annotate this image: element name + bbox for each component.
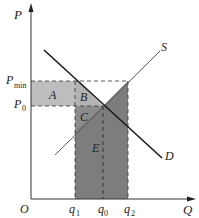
q2-label: q — [124, 202, 130, 216]
origin-label: O — [20, 202, 29, 216]
y-axis-label: P — [13, 7, 22, 22]
q1-label: q — [69, 202, 75, 216]
p0-label: P — [13, 97, 22, 111]
p0-subscript: 0 — [22, 104, 26, 113]
x-axis-arrow-icon — [187, 197, 196, 202]
region-e-label: E — [91, 141, 100, 155]
q1-subscript: 1 — [76, 209, 80, 218]
demand-label: D — [164, 149, 174, 163]
x-axis-label: Q — [183, 202, 193, 217]
q2-subscript: 2 — [131, 209, 135, 218]
pmin-label: P — [5, 73, 14, 87]
region-b-label: B — [80, 90, 88, 104]
region-a-label: A — [48, 88, 57, 102]
q0-subscript: 0 — [104, 209, 108, 218]
price-floor-diagram: P Q O P min P 0 q 1 q 0 q 2 S D A B C E — [0, 0, 199, 218]
supply-label: S — [161, 40, 167, 54]
pmin-subscript: min — [14, 81, 26, 90]
y-axis-arrow-icon — [29, 3, 34, 12]
region-c-label: C — [80, 110, 89, 124]
